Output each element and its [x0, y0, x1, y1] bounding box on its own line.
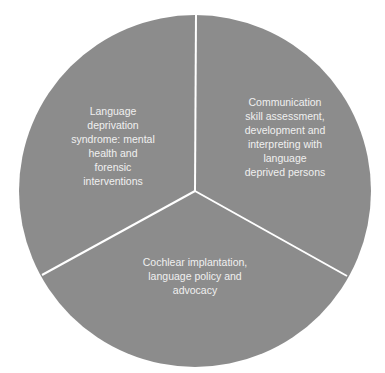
slice-label-cochlear-implantation: Cochlear implantation, language policy a… [130, 255, 260, 297]
divider-top [195, 15, 196, 191]
slice-label-communication-skill: Communication skill assessment, developm… [228, 95, 342, 179]
slice-label-language-deprivation: Language deprivation syndrome: mental he… [58, 104, 168, 188]
